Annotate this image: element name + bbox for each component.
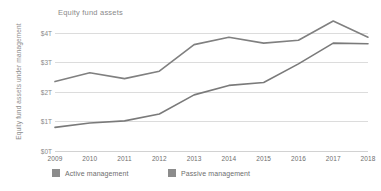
x-axis-tick-label: 2010 [82,155,97,162]
y-axis-tick-label: $0T [41,148,52,155]
x-axis-tick-label: 2015 [256,155,271,162]
equity-fund-assets-chart: Equity fund assets under management Equi… [0,0,381,191]
x-axis-tick-label: 2013 [187,155,202,162]
x-axis-tick-label: 2014 [221,155,236,162]
legend-item[interactable]: Active management [52,169,129,177]
y-axis-tick-labels: $0T$1T$2T$3T$4T [30,21,52,151]
legend-label: Active management [65,170,129,177]
x-axis-tick-label: 2009 [48,155,63,162]
x-axis-tick-label: 2011 [117,155,131,162]
x-axis-tick-label: 2018 [361,155,376,162]
series-line [55,43,368,127]
x-axis-tick-labels: 2009201020112012201320142015201620172018 [55,153,368,165]
x-axis-tick-label: 2016 [291,155,306,162]
chart-legend: Active managementPassive management [0,169,381,183]
legend-label: Passive management [181,170,250,177]
y-axis-title: Equity fund assets under management [15,12,22,152]
legend-swatch-icon [52,169,60,177]
x-axis-tick-label: 2017 [326,155,341,162]
legend-swatch-icon [168,169,176,177]
y-axis-tick-label: $1T [41,118,52,125]
plot-area [55,21,368,151]
y-axis-tick-label: $4T [41,29,52,36]
legend-item[interactable]: Passive management [168,169,250,177]
gridline [55,151,368,152]
x-axis-tick-label: 2012 [152,155,167,162]
y-axis-tick-label: $3T [41,59,52,66]
series-lines [55,21,368,151]
y-axis-tick-label: $2T [41,88,52,95]
chart-title: Equity fund assets [58,8,123,17]
